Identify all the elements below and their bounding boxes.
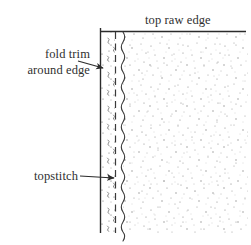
label-fold-trim-line-2: around edge: [4, 62, 90, 78]
label-fold-trim-line-1: fold trim: [4, 46, 90, 62]
fold-trim-strip: [101, 31, 115, 232]
fabric-field: [123, 31, 248, 233]
label-topstitch: topstitch: [4, 168, 78, 184]
sewing-diagram-figure: top raw edge fold trim around edge topst…: [0, 0, 251, 245]
label-top-raw-edge: top raw edge: [145, 12, 211, 28]
label-fold-trim-around-edge: fold trim around edge: [4, 46, 90, 78]
diagram-canvas: [0, 0, 251, 245]
